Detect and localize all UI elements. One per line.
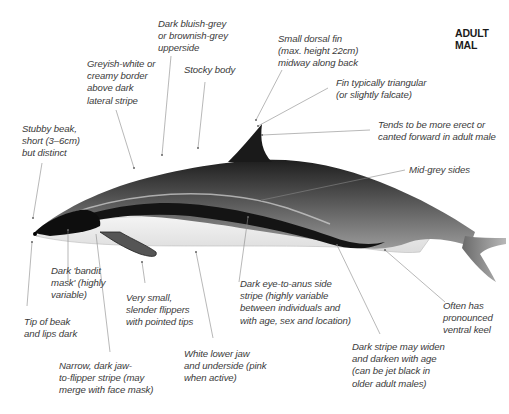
- label-stripe-age: Dark stripe may widen and darken with ag…: [352, 341, 445, 390]
- label-dorsal-fin: Small dorsal fin (max. height 22cm) midw…: [278, 33, 358, 70]
- label-beak: Stubby beak, short (3–6cm) but distinct: [22, 123, 80, 160]
- dolphin-fluke: [462, 236, 506, 282]
- label-flippers: Very small, slender flippers with pointe…: [126, 292, 193, 329]
- label-fin-erect: Tends to be more erect or canted forward…: [378, 119, 496, 143]
- label-upperside: Dark bluish-grey or brownish-grey uppers…: [158, 18, 228, 55]
- label-jaw-stripe: Narrow, dark jaw- to-flipper stripe (may…: [59, 360, 153, 397]
- diagram-title: ADULT MAL: [455, 27, 509, 51]
- label-mid-grey-sides: Mid-grey sides: [409, 164, 470, 176]
- label-underside: White lower jaw and underside (pink when…: [184, 348, 266, 385]
- label-fin-shape: Fin typically triangular (or slightly fa…: [336, 77, 426, 101]
- label-beak-tip: Tip of beak and lips dark: [24, 316, 77, 340]
- label-ventral-keel: Often has pronounced ventral keel: [443, 300, 493, 337]
- label-bandit-mask: Dark 'bandit mask' (highly variable): [51, 265, 105, 302]
- label-border: Greyish-white or creamy border above dar…: [87, 58, 155, 107]
- label-side-stripe: Dark eye-to-anus side stripe (highly var…: [240, 278, 351, 327]
- label-stocky-body: Stocky body: [184, 64, 235, 76]
- dolphin-dorsal-fin: [228, 124, 272, 162]
